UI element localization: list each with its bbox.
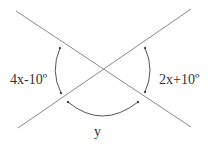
bottom-angle-label: y	[94, 125, 101, 139]
right-angle-label: 2x+10º	[159, 73, 199, 87]
diagram-canvas: 4x-10º 2x+10º y	[0, 0, 208, 148]
arc-bottom-angle	[68, 102, 138, 116]
arc-right-angle	[145, 48, 150, 92]
arc-left-angle	[55, 48, 61, 93]
left-angle-label: 4x-10º	[10, 73, 47, 87]
